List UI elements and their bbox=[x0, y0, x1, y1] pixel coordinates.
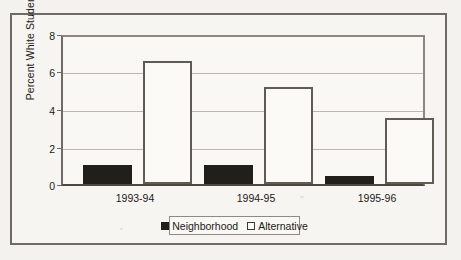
y-tick-label-0: 0 bbox=[33, 180, 55, 192]
bar-alternative-1994-95 bbox=[264, 87, 313, 184]
bar-neighborhood-1993-94 bbox=[83, 165, 132, 184]
legend-label-neighborhood: Neighborhood bbox=[172, 220, 238, 232]
y-tick-label-8: 8 bbox=[33, 30, 55, 42]
x-tick-label-1993-94: 1993-94 bbox=[95, 192, 175, 204]
y-tick-label-4: 4 bbox=[33, 105, 55, 117]
bar-alternative-1995-96 bbox=[385, 118, 434, 184]
legend-entry-alternative: Alternative bbox=[247, 220, 308, 232]
chart-figure: Percent White Students 8 6 4 2 0 1993-94… bbox=[0, 0, 461, 260]
y-tick-label-2: 2 bbox=[33, 143, 55, 155]
plot-area bbox=[61, 35, 425, 186]
x-tick-label-1995-96: 1995-96 bbox=[337, 192, 417, 204]
gridline-6 bbox=[63, 73, 423, 74]
chart-legend: Neighborhood Alternative bbox=[169, 216, 300, 235]
gridline-4 bbox=[63, 111, 423, 112]
legend-swatch-filled-icon bbox=[161, 222, 169, 230]
bar-alternative-1993-94 bbox=[143, 61, 192, 184]
y-tick-label-6: 6 bbox=[33, 67, 55, 79]
legend-label-alternative: Alternative bbox=[258, 220, 308, 232]
legend-swatch-open-icon bbox=[247, 222, 255, 230]
x-tick-label-1994-95: 1994-95 bbox=[216, 192, 296, 204]
gridline-2 bbox=[63, 149, 423, 150]
bar-neighborhood-1995-96 bbox=[325, 176, 374, 184]
legend-entry-neighborhood: Neighborhood bbox=[161, 220, 238, 232]
bar-neighborhood-1994-95 bbox=[204, 165, 253, 184]
